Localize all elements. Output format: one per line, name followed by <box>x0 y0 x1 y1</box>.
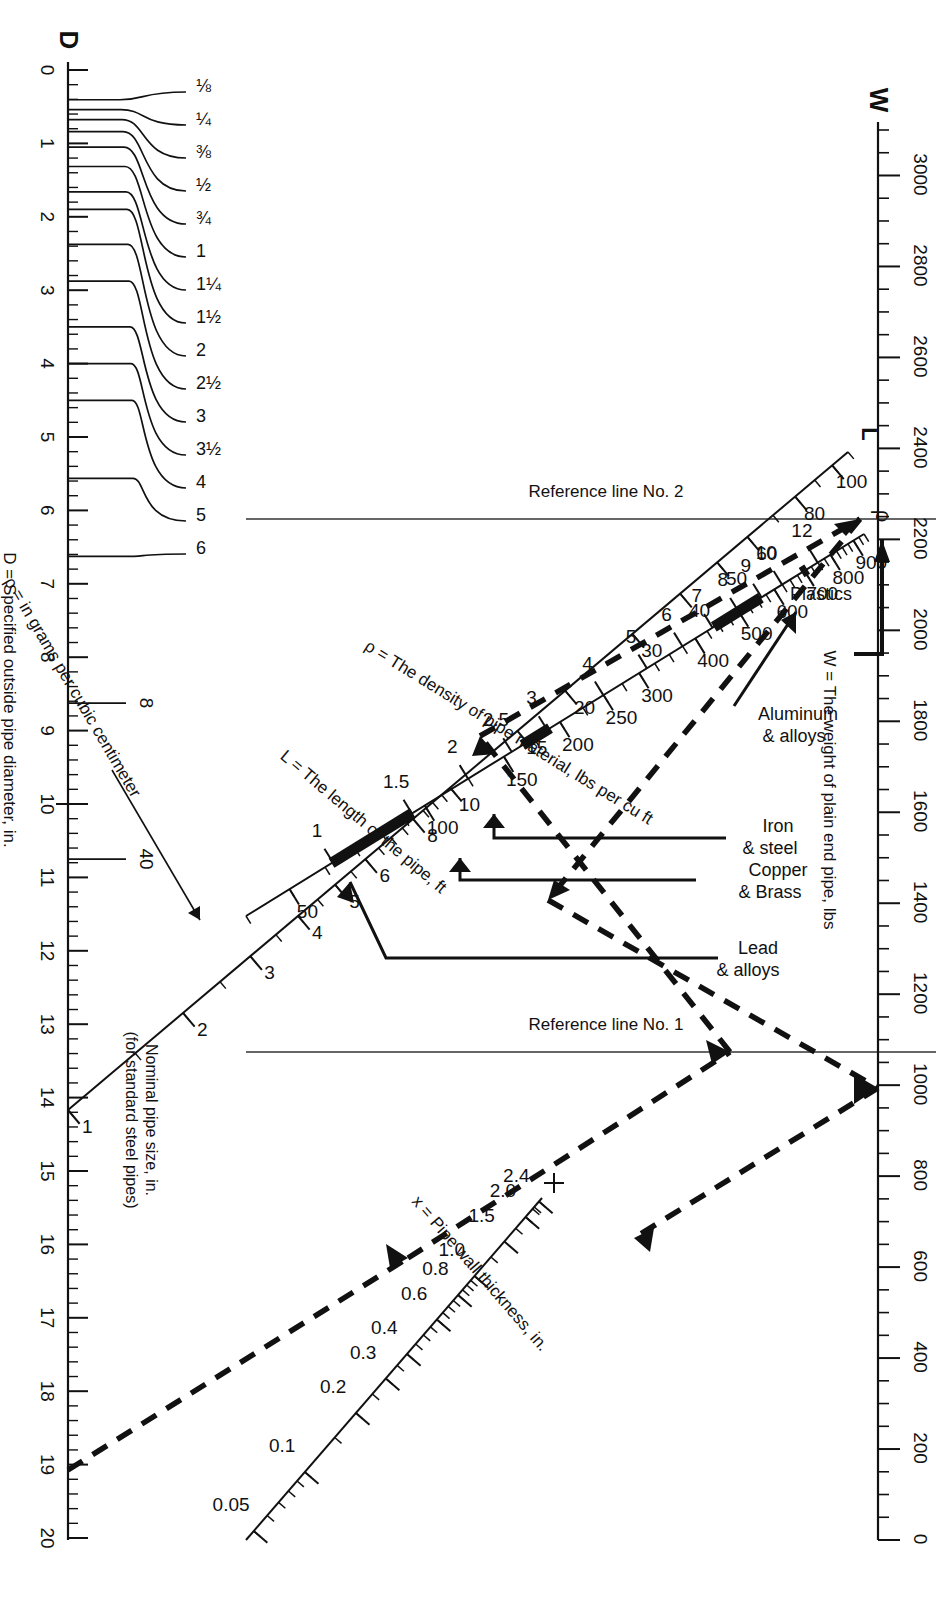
tick-label: 2800 <box>910 244 931 286</box>
tick-label: 1400 <box>910 881 931 923</box>
tick-label: 1600 <box>910 790 931 832</box>
tick-label: 0.3 <box>350 1342 376 1363</box>
tick-label: 2 <box>447 736 458 757</box>
tick-label: ¼ <box>196 109 212 129</box>
tick-label: 5 <box>37 432 58 443</box>
tick-label: 10 <box>459 794 480 815</box>
material-label-lead-1: Lead <box>738 938 778 958</box>
nominal-pipe-size-caption-1: Nominal pipe size, in. <box>143 1044 160 1196</box>
tick-label: 80 <box>804 503 825 524</box>
tick-label: 0 <box>910 1534 931 1545</box>
tick-label: 9 <box>37 725 58 736</box>
tick-label: 18 <box>37 1381 58 1402</box>
tick-label: 1 <box>312 820 323 841</box>
nomogram-svg: D 01234567891011121314151617181920 D = S… <box>0 0 946 1599</box>
tick-label: 15 <box>526 737 547 758</box>
tick-label: 0.05 <box>213 1494 250 1515</box>
axis-D-symbol: D <box>54 31 84 50</box>
tick-label: 2000 <box>910 608 931 650</box>
tick-label: 4 <box>196 472 206 492</box>
material-label-aluminum-2: & alloys <box>762 726 825 746</box>
material-label-copper-1: Copper <box>748 860 807 880</box>
tick-label: 0 <box>37 65 58 76</box>
tick-label: 2 <box>196 340 206 360</box>
tick-label: 2200 <box>910 517 931 559</box>
tick-label: 8 <box>427 825 438 846</box>
tick-label: 2 <box>37 212 58 223</box>
tick-label: 0.6 <box>401 1283 427 1304</box>
tick-label: 5 <box>349 891 360 912</box>
tick-label: 0.2 <box>320 1376 346 1397</box>
tick-label: 2400 <box>910 426 931 468</box>
tick-label: ⅛ <box>196 76 212 96</box>
tick-label: 2 <box>197 1019 208 1040</box>
material-label-iron-2: & steel <box>742 838 797 858</box>
tick-label: 3 <box>264 962 275 983</box>
tick-label: 13 <box>37 1014 58 1035</box>
tick-label: 6 <box>196 538 206 558</box>
tick-label: 1 <box>82 1116 93 1137</box>
tick-label: 400 <box>697 650 729 671</box>
tick-label: 1 <box>37 138 58 149</box>
tick-label: 1000 <box>910 1063 931 1105</box>
tick-label: 0.1 <box>269 1435 295 1456</box>
tick-label: 15 <box>37 1160 58 1181</box>
tick-label: 1200 <box>910 972 931 1014</box>
tick-label: 800 <box>910 1159 931 1191</box>
tick-label: 250 <box>606 707 638 728</box>
tick-label: 300 <box>641 685 673 706</box>
tick-label: 4 <box>312 922 323 943</box>
tick-label: 20 <box>574 697 595 718</box>
axis-W-caption: W = The weight of plain end pipe, lbs <box>820 651 839 930</box>
tick-label: ⅜ <box>196 142 212 162</box>
material-label-iron-1: Iron <box>762 816 793 836</box>
tick-label: 20 <box>37 1527 58 1548</box>
tick-label: 16 <box>37 1234 58 1255</box>
material-label-copper-2: & Brass <box>738 882 801 902</box>
tick-label: 40 <box>136 848 157 869</box>
material-band <box>802 569 808 572</box>
tick-label: 2600 <box>910 335 931 377</box>
tick-label: 5 <box>196 505 206 525</box>
tick-label: 2.4 <box>503 1165 530 1186</box>
axis-D-tick-labels: 01234567891011121314151617181920 <box>37 65 58 1549</box>
tick-label: 100 <box>836 471 868 492</box>
tick-label: 1800 <box>910 699 931 741</box>
reference-line-2-label: Reference line No. 2 <box>529 482 684 501</box>
tick-label: 1.5 <box>383 771 409 792</box>
tick-label: 12 <box>37 940 58 961</box>
tick-label: 3000 <box>910 153 931 195</box>
tick-label: ¾ <box>196 208 212 228</box>
tick-label: 19 <box>37 1454 58 1475</box>
nominal-pipe-size-caption-2: (for standard steel pipes) <box>123 1032 140 1209</box>
tick-label: 3½ <box>196 439 221 459</box>
tick-label: 11 <box>37 868 58 888</box>
tick-label: 400 <box>910 1341 931 1373</box>
tick-label: 6 <box>379 865 390 886</box>
tick-label: 2½ <box>196 373 221 393</box>
tick-label: 7 <box>37 579 58 590</box>
tick-label: 10 <box>37 793 58 814</box>
nomogram-page: D 01234567891011121314151617181920 D = S… <box>0 0 946 1599</box>
tick-label: 0.4 <box>371 1317 398 1338</box>
nomogram-rotated-canvas: D 01234567891011121314151617181920 D = S… <box>0 0 946 1599</box>
tick-label: 1½ <box>196 307 221 327</box>
tick-label: 60 <box>756 543 777 564</box>
material-label-lead-2: & alloys <box>716 960 779 980</box>
reference-line-1-label: Reference line No. 1 <box>529 1015 684 1034</box>
tick-label: 14 <box>37 1087 58 1109</box>
tick-label: 3 <box>196 406 206 426</box>
tick-label: 17 <box>37 1307 58 1328</box>
tick-label: 600 <box>910 1250 931 1282</box>
tick-label: 3 <box>37 285 58 296</box>
tick-label: 200 <box>910 1432 931 1464</box>
tick-label: 1 <box>196 241 206 261</box>
tick-label: 0.8 <box>422 1258 448 1279</box>
tick-label: 6 <box>37 505 58 516</box>
axis-W-symbol: W <box>864 88 894 113</box>
tick-label: 200 <box>562 734 594 755</box>
tick-label: 1¼ <box>196 274 222 294</box>
tick-label: 8 <box>136 698 157 709</box>
tick-label: 4 <box>37 358 58 369</box>
tick-label: ½ <box>196 175 211 195</box>
